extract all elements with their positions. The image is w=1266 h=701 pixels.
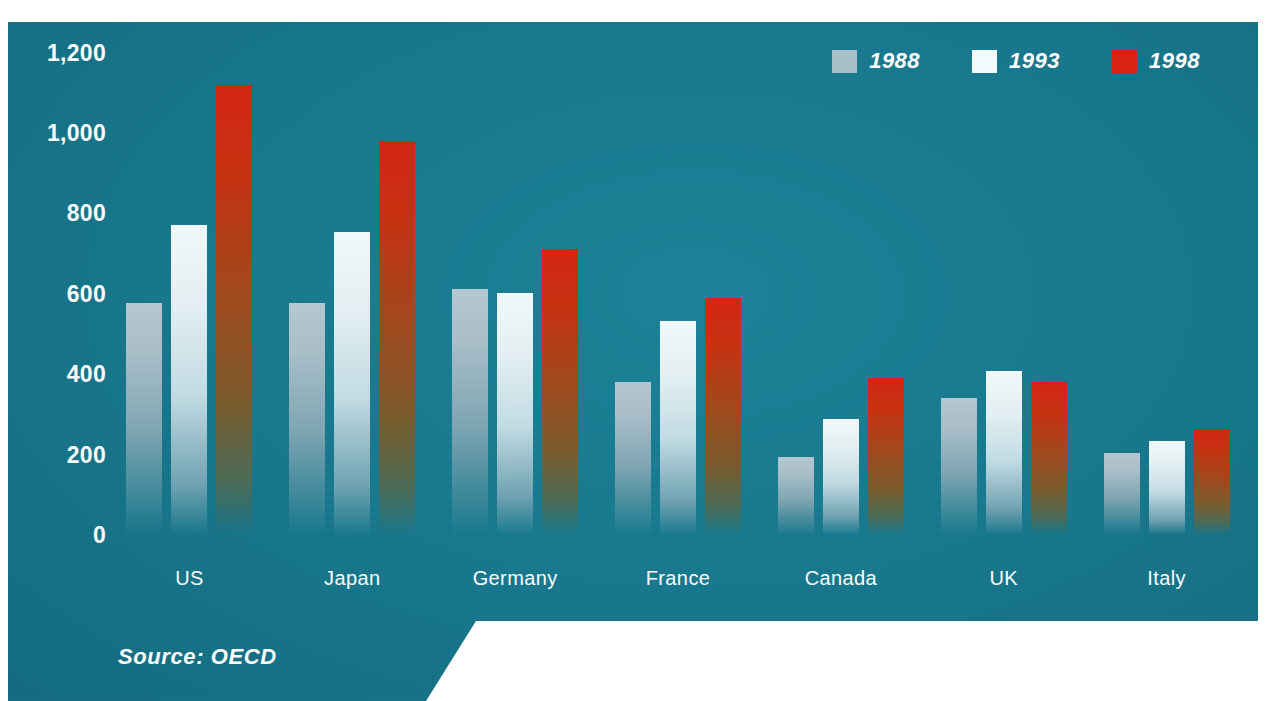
y-tick-800: 800 [16, 200, 106, 227]
y-tick-0: 0 [16, 522, 106, 549]
legend-item-1998[interactable]: 1998 [1112, 48, 1200, 74]
bar-germany-1988[interactable] [452, 289, 488, 535]
page-root: 1988 1993 1998 1,200 1,000 800 600 400 2… [0, 0, 1266, 701]
legend-item-1993[interactable]: 1993 [972, 48, 1060, 74]
bar-group-germany: Germany [434, 22, 597, 701]
bar-group-japan: Japan [271, 22, 434, 701]
x-label-uk: UK [922, 567, 1085, 590]
y-axis: 1,200 1,000 800 600 400 200 0 [16, 22, 106, 701]
legend-label-1993: 1993 [1009, 48, 1060, 74]
bar-groups: US Japan Germany [108, 22, 1248, 701]
bar-italy-1993[interactable] [1149, 441, 1185, 535]
bar-us-1988[interactable] [126, 303, 162, 535]
bar-japan-1988[interactable] [289, 303, 325, 535]
y-tick-1000: 1,000 [16, 120, 106, 147]
bar-canada-1998[interactable] [868, 378, 904, 535]
legend-swatch-1988 [832, 50, 857, 73]
legend-label-1998: 1998 [1149, 48, 1200, 74]
bar-france-1998[interactable] [705, 298, 741, 535]
x-label-germany: Germany [434, 567, 597, 590]
bar-group-canada: Canada [759, 22, 922, 701]
y-tick-400: 400 [16, 361, 106, 388]
bar-us-1998[interactable] [216, 85, 252, 535]
source-note: Source: OECD [118, 644, 277, 670]
y-tick-200: 200 [16, 442, 106, 469]
y-tick-600: 600 [16, 281, 106, 308]
chart-panel: 1988 1993 1998 1,200 1,000 800 600 400 2… [8, 22, 1258, 701]
bar-group-us: US [108, 22, 271, 701]
bar-group-france: France [597, 22, 760, 701]
bar-canada-1988[interactable] [778, 457, 814, 535]
bar-japan-1993[interactable] [334, 232, 370, 535]
legend-label-1988: 1988 [869, 48, 920, 74]
bar-group-italy: Italy [1085, 22, 1248, 701]
x-label-italy: Italy [1085, 567, 1248, 590]
chart-legend: 1988 1993 1998 [832, 48, 1200, 74]
plot-area: 1,200 1,000 800 600 400 200 0 US [8, 22, 1258, 701]
y-tick-1200: 1,200 [16, 40, 106, 67]
bar-germany-1993[interactable] [497, 293, 533, 535]
x-label-japan: Japan [271, 567, 434, 590]
bar-uk-1993[interactable] [986, 371, 1022, 535]
bar-uk-1988[interactable] [941, 398, 977, 535]
bar-italy-1988[interactable] [1104, 453, 1140, 535]
bar-italy-1998[interactable] [1194, 429, 1230, 535]
bar-uk-1998[interactable] [1031, 382, 1067, 535]
x-label-france: France [597, 567, 760, 590]
bar-group-uk: UK [922, 22, 1085, 701]
legend-swatch-1998 [1112, 50, 1137, 73]
legend-swatch-1993 [972, 50, 997, 73]
bar-canada-1993[interactable] [823, 419, 859, 535]
bar-france-1993[interactable] [660, 321, 696, 535]
x-label-canada: Canada [759, 567, 922, 590]
bar-us-1993[interactable] [171, 225, 207, 535]
bar-germany-1998[interactable] [542, 249, 578, 535]
bar-japan-1998[interactable] [379, 141, 415, 535]
bar-france-1988[interactable] [615, 382, 651, 535]
legend-item-1988[interactable]: 1988 [832, 48, 920, 74]
x-label-us: US [108, 567, 271, 590]
